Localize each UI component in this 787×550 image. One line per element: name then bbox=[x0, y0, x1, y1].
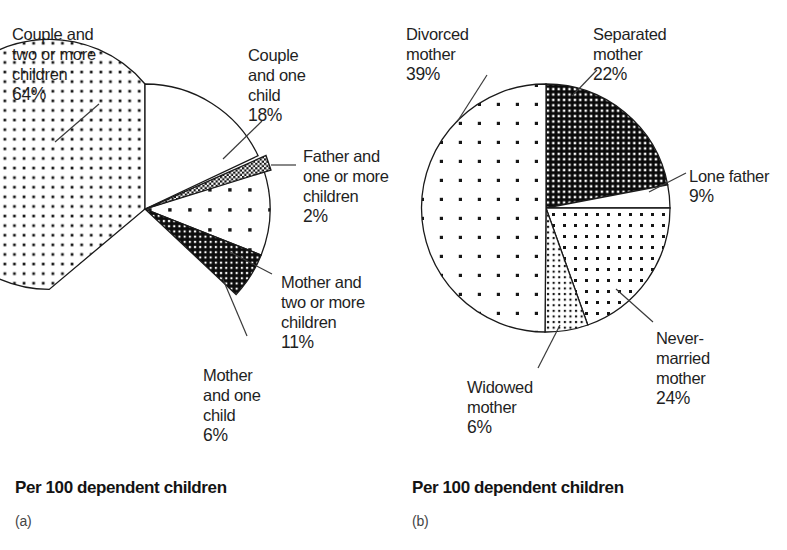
label-couple-two-or-more-children-text: Couple and two or more children bbox=[12, 25, 96, 83]
label-father-one-or-more-children-text: Father and one or more children bbox=[303, 147, 389, 205]
label-never-married-mother-pct: 24% bbox=[656, 388, 766, 408]
label-couple-one-child-text: Couple and one child bbox=[248, 46, 306, 104]
label-separated-mother-text: Separated mother bbox=[593, 25, 666, 63]
label-mother-one-child-pct: 6% bbox=[203, 425, 303, 445]
label-mother-one-child-text: Mother and one child bbox=[203, 366, 261, 424]
label-widowed-mother-text: Widowed mother bbox=[467, 378, 533, 416]
label-lone-father-text: Lone father bbox=[689, 167, 769, 185]
subcaption-a: (a) bbox=[15, 513, 32, 529]
label-widowed-mother: Widowed mother 6% bbox=[467, 357, 577, 457]
label-lone-father: Lone father 9% bbox=[689, 146, 787, 226]
caption-b: Per 100 dependent children bbox=[412, 478, 624, 498]
label-widowed-mother-pct: 6% bbox=[467, 417, 577, 437]
label-mother-one-child: Mother and one child 6% bbox=[203, 345, 303, 465]
label-separated-mother: Separated mother 22% bbox=[593, 4, 723, 104]
panel-a: Couple and two or more children 64% Coup… bbox=[0, 0, 393, 550]
panel-b: Divorced mother 39% Separated mother 22%… bbox=[394, 0, 787, 550]
label-couple-one-child-pct: 18% bbox=[248, 105, 358, 125]
label-mother-two-or-more-children-text: Mother and two or more children bbox=[281, 273, 365, 331]
label-divorced-mother-text: Divorced mother bbox=[406, 25, 469, 63]
label-never-married-mother-text: Never- married mother bbox=[656, 329, 710, 387]
label-divorced-mother-pct: 39% bbox=[406, 64, 526, 84]
slice-divorced-mother bbox=[421, 84, 546, 332]
figure-root: Couple and two or more children 64% Coup… bbox=[0, 0, 787, 550]
label-couple-two-or-more-children: Couple and two or more children 64% bbox=[12, 4, 162, 124]
label-father-one-or-more-children: Father and one or more children 2% bbox=[303, 126, 403, 246]
subcaption-b: (b) bbox=[412, 513, 429, 529]
caption-a: Per 100 dependent children bbox=[15, 478, 227, 498]
label-lone-father-pct: 9% bbox=[689, 186, 787, 206]
label-separated-mother-pct: 22% bbox=[593, 64, 723, 84]
label-father-one-or-more-children-pct: 2% bbox=[303, 206, 403, 226]
label-divorced-mother: Divorced mother 39% bbox=[406, 4, 526, 104]
label-couple-two-or-more-children-pct: 64% bbox=[12, 84, 162, 104]
label-never-married-mother: Never- married mother 24% bbox=[656, 308, 766, 428]
